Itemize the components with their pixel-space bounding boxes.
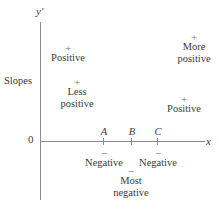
slope-annotation-most-negative-6: −Mostnegative	[113, 168, 149, 198]
x-axis-tick-label-a: A	[101, 126, 107, 137]
slope-annotation-less-positive-2: +Lesspositive	[60, 78, 93, 109]
slope-annotation-more-positive-1: +Morepositive	[177, 33, 210, 64]
y-axis-label: y′	[36, 6, 43, 17]
annotation-text-line1: More	[177, 41, 210, 53]
slope-annotation-negative-4: −Negative	[85, 150, 123, 169]
annotation-text-line1: Negative	[139, 157, 177, 169]
plus-sign-icon: +	[51, 44, 85, 52]
y-axis-line	[40, 22, 41, 200]
x-axis-tick-c	[157, 138, 158, 145]
x-axis-line	[40, 141, 205, 142]
x-axis-tick-label-b: B	[129, 126, 135, 137]
annotation-text-line1: Negative	[85, 157, 123, 169]
annotation-text-line1: Most	[113, 175, 149, 187]
minus-sign-icon: −	[113, 168, 149, 175]
slope-annotation-positive-0: +Positive	[51, 44, 85, 64]
minus-sign-icon: −	[139, 150, 177, 157]
annotation-text-line2: positive	[60, 98, 93, 110]
plus-sign-icon: +	[167, 95, 201, 103]
slope-annotation-positive-3: +Positive	[167, 95, 201, 115]
slope-sign-diagram: y′ x 0 Slopes ABC +Positive+Morepositive…	[0, 0, 219, 209]
annotation-text-line1: Less	[60, 86, 93, 98]
annotation-text-line2: positive	[177, 53, 210, 65]
plus-sign-icon: +	[60, 78, 93, 86]
x-axis-tick-label-c: C	[154, 126, 161, 137]
annotation-text-line2: negative	[113, 187, 149, 199]
plus-sign-icon: +	[177, 33, 210, 41]
x-axis-label: x	[206, 136, 211, 147]
x-axis-tick-a	[103, 138, 104, 145]
annotation-text-line1: Positive	[167, 103, 201, 115]
annotation-text-line1: Positive	[51, 52, 85, 64]
minus-sign-icon: −	[85, 150, 123, 157]
slopes-caption: Slopes	[4, 75, 32, 86]
origin-label: 0	[28, 134, 34, 145]
x-axis-tick-b	[131, 138, 132, 145]
slope-annotation-negative-5: −Negative	[139, 150, 177, 169]
